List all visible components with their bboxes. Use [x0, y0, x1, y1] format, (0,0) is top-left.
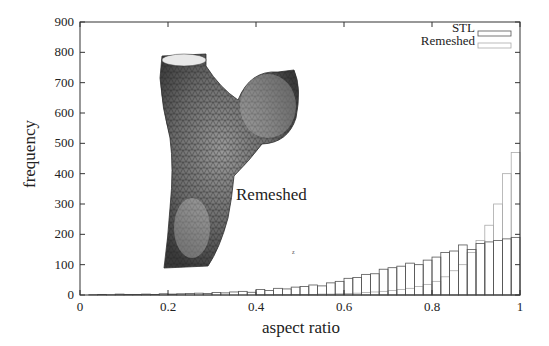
bar-remeshed: [397, 290, 406, 295]
bar-stl: [458, 245, 467, 295]
x-tick-label: 1: [517, 299, 524, 314]
bar-stl: [441, 253, 450, 295]
bar-stl: [467, 250, 476, 296]
y-tick-label: 200: [55, 226, 75, 241]
bar-remeshed: [441, 277, 450, 295]
x-tick-label: 0.2: [160, 299, 176, 314]
legend-stl-swatch: [478, 31, 511, 36]
y-tick-label: 400: [55, 166, 75, 181]
y-axis-label: frequency: [20, 120, 40, 188]
x-tick-label: 0.6: [336, 299, 353, 314]
x-tick-label: 0: [77, 299, 84, 314]
bar-remeshed: [467, 253, 476, 295]
bar-remeshed: [432, 281, 441, 295]
y-tick-label: 0: [68, 287, 75, 302]
bar-stl: [282, 289, 291, 295]
bar-remeshed: [379, 291, 388, 295]
bar-stl: [300, 287, 309, 295]
bar-remeshed: [450, 271, 459, 295]
bar-remeshed: [423, 284, 432, 295]
y-tick-label: 700: [55, 75, 75, 90]
bar-remeshed: [458, 265, 467, 295]
bar-stl: [344, 278, 353, 295]
bar-stl: [476, 243, 485, 295]
bar-stl: [494, 240, 503, 295]
bar-stl: [414, 265, 423, 295]
bar-stl: [502, 239, 511, 295]
bar-stl: [326, 283, 335, 295]
legend-remeshed-label: Remeshed: [421, 33, 475, 49]
bar-stl: [318, 286, 327, 295]
y-tick-label: 800: [55, 44, 75, 59]
axis-triad-glyph: z: [292, 249, 295, 255]
bar-stl: [511, 237, 520, 295]
bar-stl: [423, 260, 432, 295]
inset-label: Remeshed: [236, 185, 307, 205]
bar-remeshed: [502, 174, 511, 295]
legend-remeshed-swatch: [478, 43, 511, 48]
bar-stl: [309, 285, 318, 295]
bar-stl: [397, 266, 406, 295]
bar-stl: [485, 242, 494, 295]
x-axis-label: aspect ratio: [262, 318, 340, 338]
y-tick-label: 300: [55, 196, 75, 211]
bar-stl: [238, 291, 247, 295]
bar-remeshed: [414, 287, 423, 295]
bar-stl: [335, 281, 344, 295]
bar-remeshed: [485, 225, 494, 295]
mesh-body: [160, 54, 299, 268]
bar-stl: [450, 251, 459, 295]
bar-stl: [274, 288, 283, 295]
bar-remeshed: [476, 240, 485, 295]
x-tick-label: 0.4: [248, 299, 265, 314]
bar-stl: [353, 277, 362, 295]
bar-remeshed: [494, 204, 503, 295]
y-tick-label: 600: [55, 105, 75, 120]
y-tick-label: 900: [55, 14, 75, 29]
y-tick-label: 100: [55, 257, 75, 272]
bar-stl: [362, 274, 371, 295]
bar-stl: [432, 257, 441, 295]
y-tick-label: 500: [55, 135, 75, 150]
bar-remeshed: [388, 290, 397, 295]
x-tick-label: 0.8: [424, 299, 440, 314]
bar-stl: [388, 268, 397, 295]
vessel-mesh-image: [150, 48, 320, 273]
bar-stl: [406, 263, 415, 295]
bar-stl: [291, 287, 300, 295]
bar-stl: [256, 290, 265, 295]
bar-remeshed: [406, 288, 415, 295]
